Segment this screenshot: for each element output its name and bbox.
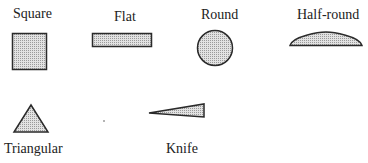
half-round-shape <box>290 32 362 46</box>
label-square: Square <box>13 6 52 22</box>
label-half-round: Half-round <box>297 7 359 23</box>
label-triangular: Triangular <box>4 141 63 157</box>
label-round: Round <box>201 7 238 23</box>
label-flat: Flat <box>114 9 136 25</box>
stray-dot <box>103 120 105 122</box>
triangular-shape <box>14 105 48 132</box>
flat-shape <box>93 34 152 47</box>
round-shape <box>198 31 233 66</box>
knife-shape <box>149 104 204 117</box>
label-knife: Knife <box>166 141 198 157</box>
square-shape <box>13 34 47 70</box>
shapes-diagram <box>0 0 368 163</box>
